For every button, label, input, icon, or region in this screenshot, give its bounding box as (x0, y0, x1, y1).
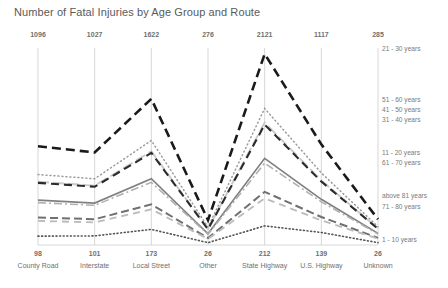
bottom-value-label: 212 (259, 250, 271, 257)
top-value-label: 1027 (87, 31, 103, 38)
legend-item-1---10-years[interactable]: 1 - 10 years (382, 236, 417, 243)
chart-container: Number of Fatal Injuries by Age Group an… (0, 0, 448, 288)
category-label-ushighway: U.S. Highway (300, 262, 342, 269)
category-label-interstate: Interstate (80, 262, 109, 269)
chart-plot-area (0, 0, 448, 288)
category-label-statehighway: State Highway (242, 262, 287, 269)
category-label-localstreet: Local Street (133, 262, 170, 269)
top-value-label: 1622 (144, 31, 160, 38)
legend-item-above-81-years[interactable]: above 81 years (382, 192, 427, 199)
legend-item-61---70-years[interactable]: 61 - 70 years (382, 159, 420, 166)
legend-item-41---50-years[interactable]: 41 - 50 years (382, 106, 420, 113)
bottom-value-label: 26 (204, 250, 212, 257)
top-value-label: 1117 (314, 31, 329, 38)
category-label-unknown: Unknown (363, 262, 392, 269)
top-value-label: 2121 (257, 31, 273, 38)
bottom-value-label: 139 (315, 250, 327, 257)
category-label-countyroad: County Road (18, 262, 59, 269)
legend-item-31---40-years[interactable]: 31 - 40 years (382, 116, 420, 123)
legend-item-71---80-years[interactable]: 71 - 80 years (382, 203, 420, 210)
bottom-value-label: 173 (145, 250, 157, 257)
top-value-label: 285 (372, 31, 384, 38)
top-value-label: 276 (202, 31, 214, 38)
bottom-value-label: 26 (374, 250, 382, 257)
category-label-other: Other (199, 262, 217, 269)
bottom-value-label: 98 (34, 250, 42, 257)
legend-item-51---60-years[interactable]: 51 - 60 years (382, 96, 420, 103)
top-value-label: 1096 (30, 31, 46, 38)
gridlines-group (38, 48, 378, 245)
legend-item-11---20-years[interactable]: 11 - 20 years (382, 149, 420, 156)
legend-item-21---30-years[interactable]: 21 - 30 years (382, 45, 420, 52)
bottom-value-label: 101 (89, 250, 101, 257)
